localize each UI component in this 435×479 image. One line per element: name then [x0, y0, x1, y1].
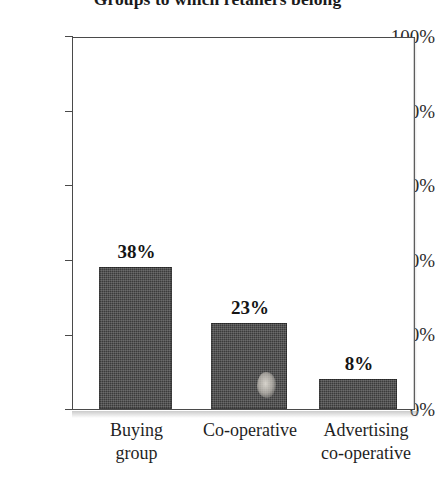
bar-advertising-co-operative [319, 379, 397, 409]
bar-chart-figure: Groups to which retailers belong 100%80%… [0, 0, 435, 479]
bar-buying-group [99, 267, 172, 409]
chart-title: Groups to which retailers belong [0, 0, 435, 10]
scan-smudge-artifact [257, 372, 276, 398]
baseline-shade [72, 411, 418, 418]
bar-value-label-advertising-co-operative: 8% [320, 353, 398, 375]
x-axis-label-buying-group: Buying group [100, 419, 173, 465]
bar-value-label-co-operative: 23% [212, 297, 288, 319]
x-axis-label-advertising-co-operative: Advertising co-operative [307, 419, 425, 465]
bar-value-label-buying-group: 38% [100, 241, 173, 263]
bar-co-operative [211, 323, 287, 409]
x-axis-label-co-operative: Co-operative [200, 419, 300, 442]
